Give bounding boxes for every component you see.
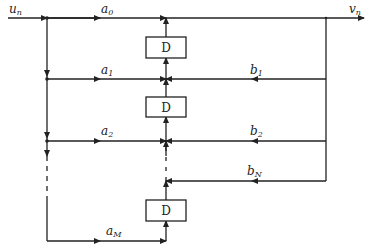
gain-label-a1: a1 [101,63,113,78]
svg-text:a1: a1 [101,63,113,78]
input-label: un [9,2,22,17]
delay-block-1: D [146,37,186,58]
svg-text:un: un [9,2,22,17]
gain-label-a0: a0 [101,2,113,17]
gain-label-bN: bN [247,164,263,179]
delay-block-2: D [146,97,186,117]
gain-label-a2: a2 [101,124,113,139]
svg-text:D: D [161,41,171,55]
filter-block-diagram: D D D un vn a0 a1 a2 aM b1 b2 bN [0,0,372,250]
output-label: vn [349,2,361,17]
delay-block-3: D [146,200,186,221]
gain-label-b1: b1 [250,63,263,78]
gain-label-aM: aM [106,224,122,239]
svg-text:a2: a2 [101,124,113,139]
svg-text:b2: b2 [250,124,263,139]
svg-text:D: D [161,101,171,115]
gain-label-b2: b2 [250,124,263,139]
svg-text:vn: vn [349,2,361,17]
svg-text:a0: a0 [101,2,113,17]
svg-text:aM: aM [106,224,122,239]
svg-text:b1: b1 [250,63,263,78]
svg-text:D: D [161,204,171,218]
svg-text:bN: bN [247,164,263,179]
